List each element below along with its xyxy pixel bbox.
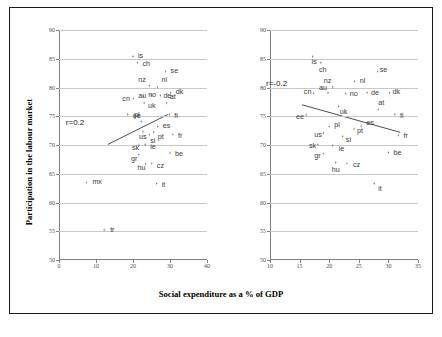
data-point-dk [388, 91, 392, 95]
data-point-it [372, 182, 376, 186]
y-tick-mark [267, 145, 270, 146]
data-point-label-fr: fr [178, 132, 182, 139]
y-tick-mark [267, 59, 270, 60]
gridline-y [59, 59, 207, 60]
data-point-label-au: au [319, 84, 327, 91]
data-point-cz [150, 161, 154, 165]
scatter-panel-left: r=0.2 505560657075808590010203040ischsen… [10, 8, 222, 315]
x-axis-title: Social expenditure as a % of GDP [10, 289, 432, 299]
y-tick-mark [267, 174, 270, 175]
x-tick-label: 40 [204, 263, 210, 269]
x-tick-label: 30 [385, 263, 391, 269]
y-tick-mark [56, 231, 59, 232]
x-tick-label: 10 [267, 263, 273, 269]
y-tick-mark [267, 231, 270, 232]
data-point-label-ie: ie [339, 145, 345, 152]
data-point-es [156, 125, 160, 129]
plot-area-left: r=0.2 505560657075808590010203040ischsen… [59, 30, 207, 260]
data-point-label-cz: cz [157, 162, 164, 169]
data-point-fr [171, 133, 175, 137]
data-point-ch [135, 61, 139, 65]
data-point-label-ch: ch [319, 66, 327, 73]
data-point-label-no: no [350, 90, 358, 97]
y-tick-label: 50 [49, 257, 55, 263]
gridline-y [270, 174, 418, 175]
data-point-label-dk: dk [176, 88, 184, 95]
data-point-label-uk: uk [148, 102, 156, 109]
correlation-annotation-left: r=0.2 [66, 118, 84, 127]
data-point-label-fi: fi [174, 112, 178, 119]
data-point-nl [155, 85, 159, 89]
data-point-label-de: de [371, 89, 379, 96]
data-point-label-nz: nz [138, 76, 146, 83]
data-point-label-cn: cn [304, 88, 312, 95]
y-tick-mark [267, 88, 270, 89]
y-tick-label: 50 [260, 257, 266, 263]
y-tick-label: 85 [49, 56, 55, 62]
y-tick-label: 65 [260, 171, 266, 177]
data-point-label-dk: dk [393, 88, 401, 95]
y-tick-mark [56, 59, 59, 60]
data-point-de [158, 94, 162, 98]
data-point-label-fr: fr [403, 132, 407, 139]
data-point-gr [137, 153, 141, 157]
data-point-label-au: au [138, 92, 146, 99]
y-tick-label: 90 [260, 27, 266, 33]
data-point-uk [142, 101, 146, 105]
gridline-y [59, 30, 207, 31]
data-point-label-pt: pt [158, 133, 164, 140]
data-point-nz [147, 84, 151, 88]
y-tick-label: 70 [49, 142, 55, 148]
data-point-ie [143, 142, 147, 146]
y-tick-label: 90 [49, 27, 55, 33]
x-tick-label: 15 [297, 263, 303, 269]
data-point-label-is: is [312, 58, 317, 65]
data-point-label-us: us [139, 133, 147, 140]
data-point-label-it: it [162, 181, 166, 188]
y-tick-label: 55 [260, 228, 266, 234]
x-tick-label: 20 [130, 263, 136, 269]
plot-area-right: r=-0.2 505560657075808590101520253035isc… [270, 30, 418, 260]
y-tick-mark [267, 116, 270, 117]
data-point-label-us: us [314, 131, 322, 138]
data-point-label-sk: sk [132, 144, 139, 151]
scatter-panel-right: r=-0.2 505560657075808590101520253035isc… [216, 8, 428, 315]
data-point-label-no: no [148, 91, 156, 98]
y-tick-label: 55 [49, 228, 55, 234]
data-point-pl [139, 119, 143, 123]
data-point-gr [321, 152, 325, 156]
y-tick-mark [267, 30, 270, 31]
data-point-be [386, 150, 390, 154]
data-point-label-sk: sk [309, 142, 316, 149]
data-point-nz [331, 85, 335, 89]
data-point-fi [393, 113, 397, 117]
x-axis-line-right [270, 259, 418, 260]
data-point-label-ie: ie [150, 143, 156, 150]
data-point-label-nl: nl [161, 76, 167, 83]
y-tick-label: 85 [260, 56, 266, 62]
data-point-pt [352, 127, 356, 131]
data-point-no [344, 92, 348, 96]
x-tick-label: 25 [356, 263, 362, 269]
data-point-tr [102, 228, 106, 232]
data-point-label-nl: nl [360, 77, 366, 84]
y-tick-label: 75 [49, 113, 55, 119]
data-point-label-fi: fi [400, 112, 404, 119]
data-point-pt [152, 130, 156, 134]
data-point-it [155, 182, 159, 186]
x-tick-label: 35 [415, 263, 421, 269]
data-point-at [165, 101, 169, 105]
data-point-label-be: be [393, 149, 401, 156]
data-point-label-pl: pl [134, 111, 140, 118]
y-tick-mark [56, 174, 59, 175]
y-tick-mark [56, 116, 59, 117]
data-point-label-es: es [366, 119, 374, 126]
data-point-mx [84, 180, 88, 184]
y-tick-label: 70 [260, 142, 266, 148]
data-point-se [164, 69, 168, 73]
data-point-cn [131, 96, 135, 100]
data-point-label-es: es [163, 122, 171, 129]
data-point-ee [304, 113, 308, 117]
data-point-label-pl: pl [334, 121, 340, 128]
data-point-pl [327, 125, 331, 129]
